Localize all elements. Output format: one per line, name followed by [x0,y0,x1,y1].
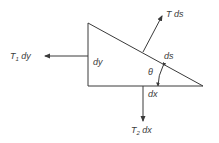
base-label: dx [148,89,158,99]
hypotenuse-label: ds [164,51,174,61]
angle-label: θ [148,67,153,77]
free-body-diagram: T1 dy T ds T2 dx dy ds dx θ [0,0,219,143]
triangle-element [88,23,203,86]
bottom-force-label: T2 dx [131,125,152,136]
normal-force-arrow [143,16,162,52]
normal-force-label: T ds [166,9,184,19]
left-side-label: dy [93,57,103,67]
left-force-label: T1 dy [10,51,31,62]
angle-arc [158,66,163,86]
